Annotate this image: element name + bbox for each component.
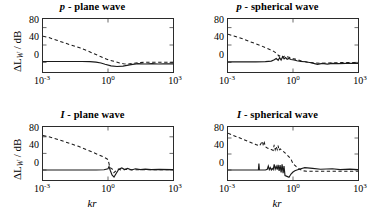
- y-tick-label: 40: [16, 31, 39, 42]
- title-rest: - spherical wave: [242, 1, 319, 12]
- plot-area: [227, 18, 359, 73]
- x-tick-label: 103: [340, 182, 370, 194]
- x-tick-label: 10-3: [22, 182, 62, 194]
- x-tick-label: 10-3: [207, 182, 247, 194]
- y-tick-label: 0: [16, 157, 39, 168]
- panel-title: I - plane wave: [0, 109, 185, 120]
- curve-dashed: [43, 136, 173, 173]
- panel-bottom-right: I - spherical wave 80 40 0 1: [185, 108, 370, 221]
- title-rest: - spherical wave: [241, 109, 318, 120]
- y-tick-label: 0: [201, 49, 224, 60]
- x-axis-label: kr: [253, 197, 301, 209]
- y-tick-label: 0: [201, 157, 224, 168]
- y-tick-label: 0: [16, 49, 39, 60]
- panel-title: p - plane wave: [0, 1, 185, 12]
- x-tick-label: 10-3: [207, 74, 247, 86]
- x-axis-label: kr: [68, 197, 116, 209]
- panel-title: p - spherical wave: [185, 1, 370, 12]
- panel-top-left: p - plane wave ΔLW / dB 80 40 0: [0, 0, 185, 110]
- x-tick-label: 100: [273, 182, 313, 194]
- curve-solid: [228, 57, 358, 65]
- x-tick-label: 100: [88, 74, 128, 86]
- curve-dashed: [43, 36, 173, 64]
- y-tick-label: 40: [201, 139, 224, 150]
- x-tick-label: 100: [273, 74, 313, 86]
- title-rest: - plane wave: [65, 1, 125, 12]
- y-tick-label: 80: [16, 122, 39, 133]
- x-tick-label: 103: [340, 74, 370, 86]
- ticks-inner: [43, 127, 173, 180]
- plot-svg: [43, 19, 173, 72]
- curve-dashed: [228, 133, 358, 171]
- y-tick-label: 80: [201, 14, 224, 25]
- panel-title: I - spherical wave: [185, 109, 370, 120]
- x-tick-label: 10-3: [22, 74, 62, 86]
- title-rest: - plane wave: [65, 109, 125, 120]
- plot-area: [227, 126, 359, 181]
- y-tick-label: 80: [201, 122, 224, 133]
- panel-bottom-left: I - plane wave ΔLW / dB 80 40 0: [0, 108, 185, 221]
- plot-svg: [228, 19, 358, 72]
- plot-area: [42, 126, 174, 181]
- y-tick-label: 40: [201, 31, 224, 42]
- figure-root: p - plane wave ΔLW / dB 80 40 0: [0, 0, 370, 221]
- curve-solid: [228, 164, 358, 178]
- y-label-main: ΔL: [11, 166, 23, 180]
- curve-dashed: [228, 34, 358, 63]
- y-label-main: ΔL: [11, 58, 23, 72]
- panel-top-right: p - spherical wave 80 40 0 1: [185, 0, 370, 110]
- x-tick-label: 100: [88, 182, 128, 194]
- plot-svg: [43, 127, 173, 180]
- y-tick-label: 80: [16, 14, 39, 25]
- curve-solid: [43, 167, 173, 178]
- plot-area: [42, 18, 174, 73]
- plot-svg: [228, 127, 358, 180]
- y-tick-label: 40: [16, 139, 39, 150]
